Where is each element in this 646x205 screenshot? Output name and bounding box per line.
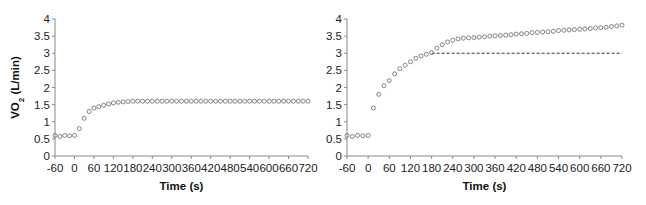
x-tick-label: 540 xyxy=(240,162,259,174)
data-point xyxy=(165,99,169,103)
data-point xyxy=(262,99,266,103)
data-point xyxy=(87,109,91,113)
x-tick-label: 300 xyxy=(162,162,181,174)
data-point xyxy=(541,30,545,34)
y-axis-title: VO2 (L/min) xyxy=(9,56,26,119)
data-point xyxy=(567,28,571,32)
data-point xyxy=(594,26,598,30)
data-point xyxy=(514,32,518,36)
x-tick-label: 480 xyxy=(528,162,547,174)
y-tick-label: 3 xyxy=(336,47,342,59)
x-tick-label: 360 xyxy=(485,162,504,174)
x-tick-label: 300 xyxy=(464,162,483,174)
data-point xyxy=(199,99,203,103)
data-point xyxy=(218,99,222,103)
data-point xyxy=(477,35,481,39)
data-point xyxy=(588,27,592,31)
data-point xyxy=(58,134,62,138)
data-point xyxy=(467,36,471,40)
data-point xyxy=(131,99,135,103)
data-point xyxy=(116,100,120,104)
data-point xyxy=(252,99,256,103)
data-point xyxy=(97,105,101,109)
data-point xyxy=(204,99,208,103)
x-tick-label: 0 xyxy=(71,162,77,174)
data-point xyxy=(301,99,305,103)
y-tick-label: 3.5 xyxy=(326,30,342,42)
data-point xyxy=(551,29,555,33)
data-point xyxy=(445,40,449,44)
data-point xyxy=(562,28,566,32)
data-point xyxy=(170,99,174,103)
y-tick-label: 2 xyxy=(44,82,50,94)
data-point xyxy=(620,23,624,27)
data-point xyxy=(282,99,286,103)
data-point xyxy=(121,100,125,104)
y-tick-label: 2.5 xyxy=(326,64,342,76)
data-point xyxy=(214,99,218,103)
data-point xyxy=(578,27,582,31)
data-point xyxy=(82,116,86,120)
x-tick-label: 120 xyxy=(104,162,123,174)
data-point xyxy=(435,46,439,50)
data-point xyxy=(451,38,455,42)
y-tick-label: 1.5 xyxy=(326,99,342,111)
data-point xyxy=(223,99,227,103)
data-point xyxy=(408,60,412,64)
data-point xyxy=(189,99,193,103)
data-point xyxy=(356,133,360,137)
data-point xyxy=(535,30,539,34)
x-tick-label: 360 xyxy=(182,162,201,174)
data-point xyxy=(107,102,111,106)
data-point xyxy=(609,25,613,29)
data-point xyxy=(419,54,423,58)
data-point xyxy=(228,99,232,103)
x-tick-label: 660 xyxy=(591,162,610,174)
x-axis-title: Time (s) xyxy=(160,180,204,192)
data-point xyxy=(77,127,81,131)
data-point xyxy=(393,72,397,76)
vo2-charts: 00.511.522.533.54-6006012018024030036042… xyxy=(0,0,646,205)
data-point xyxy=(472,35,476,39)
data-point xyxy=(546,30,550,34)
data-point xyxy=(424,52,428,56)
data-point xyxy=(572,28,576,32)
data-point xyxy=(377,92,381,96)
data-point xyxy=(272,99,276,103)
data-point xyxy=(111,101,115,105)
data-point xyxy=(126,100,130,104)
x-tick-label: 60 xyxy=(383,162,396,174)
data-point xyxy=(238,99,242,103)
data-point xyxy=(155,99,159,103)
y-tick-label: 4 xyxy=(336,13,343,25)
x-tick-label: -60 xyxy=(47,162,64,174)
data-point xyxy=(63,133,67,137)
x-tick-label: 540 xyxy=(549,162,568,174)
data-point xyxy=(102,103,106,107)
data-point xyxy=(530,31,534,35)
data-point xyxy=(498,33,502,37)
data-point xyxy=(92,106,96,110)
x-tick-label: 420 xyxy=(507,162,526,174)
x-tick-label: 240 xyxy=(143,162,162,174)
y-tick-label: 1 xyxy=(336,116,342,128)
data-point xyxy=(277,99,281,103)
data-point xyxy=(175,99,179,103)
data-point xyxy=(233,99,237,103)
data-point xyxy=(493,34,497,38)
data-point xyxy=(583,27,587,31)
y-tick-label: 1 xyxy=(44,116,50,128)
data-point xyxy=(430,51,434,55)
data-point xyxy=(387,79,391,83)
data-point xyxy=(615,24,619,28)
y-tick-label: 2 xyxy=(336,82,342,94)
left-chart-panel: 00.511.522.533.54-6006012018024030036042… xyxy=(9,13,318,192)
data-point xyxy=(398,67,402,71)
x-tick-label: 600 xyxy=(570,162,589,174)
x-tick-label: 120 xyxy=(401,162,420,174)
data-point xyxy=(68,134,72,138)
x-axis-title: Time (s) xyxy=(463,180,507,192)
data-point xyxy=(525,31,529,35)
right-chart-panel: 00.511.522.533.54-6006012018024030036042… xyxy=(326,13,632,192)
x-tick-label: 240 xyxy=(443,162,462,174)
